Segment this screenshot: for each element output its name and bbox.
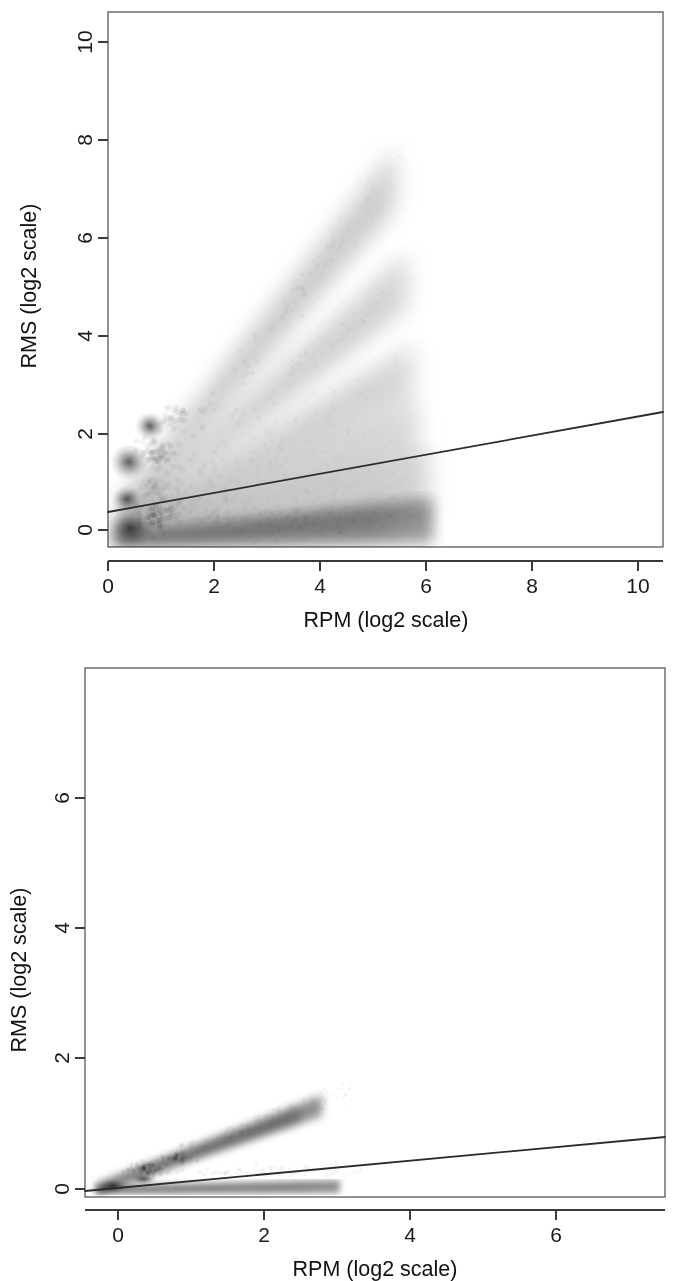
x-tick-label: 0 — [112, 1223, 124, 1246]
density-blob-origin-core — [99, 1179, 127, 1193]
y-tick-label: 6 — [50, 792, 73, 804]
y-axis-top: 10 8 6 4 2 0 — [73, 30, 109, 536]
x-tick-label: 0 — [102, 574, 114, 597]
y-tick-label: 2 — [73, 428, 96, 440]
y-tick-label: 4 — [73, 330, 96, 342]
y-tick-label: 0 — [73, 524, 96, 536]
x-tick-label: 8 — [526, 574, 538, 597]
x-tick-label: 4 — [314, 574, 326, 597]
y-tick-label: 2 — [50, 1052, 73, 1064]
y-axis-title: RMS (log2 scale) — [7, 888, 31, 1053]
scatter-plot-bottom: 6 4 2 0 0 2 4 6 RPM (log2 scale) RMS (lo… — [0, 640, 676, 1281]
density-blob-mid-left — [110, 444, 148, 480]
chart-panel-bottom: 6 4 2 0 0 2 4 6 RPM (log2 scale) RMS (lo… — [0, 640, 676, 1281]
x-axis-title: RPM (log2 scale) — [304, 608, 469, 632]
y-tick-label: 4 — [50, 922, 73, 934]
x-axis-top: 0 2 4 6 8 10 — [102, 561, 663, 597]
x-tick-label: 2 — [258, 1223, 270, 1246]
scatter-plot-top: 10 8 6 4 2 0 0 2 4 6 8 10 RPM (log2 scal… — [0, 0, 676, 640]
y-tick-label: 10 — [73, 30, 96, 53]
x-tick-label: 10 — [626, 574, 649, 597]
density-cloud-top — [107, 142, 443, 548]
x-tick-label: 2 — [208, 574, 220, 597]
y-tick-label: 6 — [73, 232, 96, 244]
plot-frame-bottom — [85, 668, 665, 1197]
x-tick-label: 6 — [550, 1223, 562, 1246]
y-tick-label: 0 — [50, 1183, 73, 1195]
y-axis-title: RMS (log2 scale) — [17, 204, 41, 369]
x-tick-label: 6 — [420, 574, 432, 597]
x-axis-title: RPM (log2 scale) — [293, 1257, 458, 1281]
y-axis-bottom: 6 4 2 0 — [50, 792, 86, 1195]
x-axis-bottom: 0 2 4 6 — [85, 1210, 665, 1246]
chart-panel-top: 10 8 6 4 2 0 0 2 4 6 8 10 RPM (log2 scal… — [0, 0, 676, 640]
y-tick-label: 8 — [73, 134, 96, 146]
x-tick-label: 4 — [404, 1223, 416, 1246]
